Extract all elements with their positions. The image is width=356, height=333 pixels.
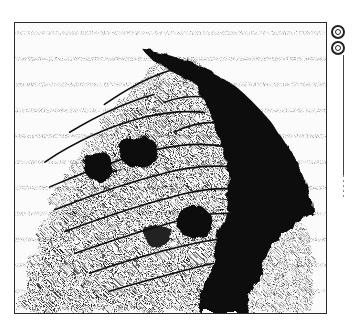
ring-button-bottom[interactable]	[331, 41, 345, 55]
map-image-frame[interactable]	[14, 22, 327, 314]
halftone-map-image	[15, 23, 326, 313]
ring-button-top[interactable]	[331, 25, 345, 39]
scroll-track-dotted-end	[343, 175, 344, 197]
vertical-scroll-track[interactable]	[343, 55, 344, 175]
